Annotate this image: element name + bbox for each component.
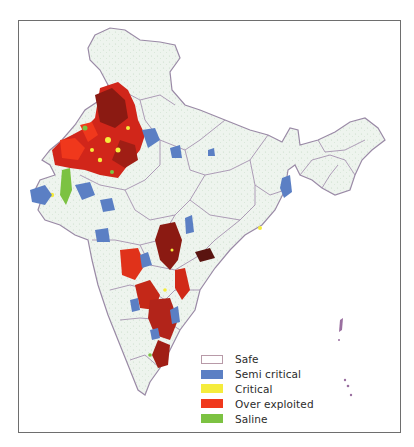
legend-swatch-saline <box>201 414 223 423</box>
legend-item-critical: Critical <box>201 382 314 397</box>
india-outline <box>35 28 385 395</box>
legend-item-saline: Saline <box>201 411 314 426</box>
legend-label: Safe <box>235 353 259 365</box>
legend-label: Saline <box>235 413 268 425</box>
legend-swatch-semi-critical <box>201 370 223 379</box>
legend-label: Over exploited <box>235 398 314 410</box>
legend-swatch-critical <box>201 384 223 393</box>
legend-swatch-safe <box>201 355 223 364</box>
legend-item-over-exploited: Over exploited <box>201 396 314 411</box>
legend-label: Critical <box>235 383 273 395</box>
map-legend: Safe Semi critical Critical Over exploit… <box>201 352 314 426</box>
legend-item-semi-critical: Semi critical <box>201 367 314 382</box>
andaman-nicobar-islands <box>338 318 352 396</box>
legend-item-safe: Safe <box>201 352 314 367</box>
legend-swatch-over-exploited <box>201 399 223 408</box>
legend-label: Semi critical <box>235 368 301 380</box>
